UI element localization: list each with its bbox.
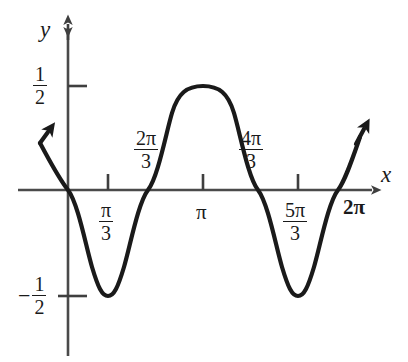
x-tick-label-2pi-over-3: 2π 3 (134, 128, 158, 172)
fraction-numerator: π (99, 200, 113, 222)
x-tick-label-2pi: 2π (343, 197, 365, 218)
plot-canvas (0, 0, 408, 362)
fraction-one-half-negative: 1 2 (32, 274, 46, 318)
fraction-numerator: 1 (33, 64, 47, 86)
x-tick-label-pi: π (196, 202, 207, 223)
fraction-2pi-over-3: 2π 3 (134, 128, 158, 172)
fraction-denominator: 3 (134, 150, 158, 171)
fraction-numerator: 5π (283, 200, 307, 222)
x-tick-label-5pi-over-3: 5π 3 (283, 200, 307, 244)
fraction-denominator: 2 (33, 86, 47, 107)
fraction-numerator: 2π (134, 128, 158, 150)
fraction-5pi-over-3: 5π 3 (283, 200, 307, 244)
fraction-one-half: 1 2 (33, 64, 47, 108)
fraction-numerator: 4π (239, 128, 263, 150)
fraction-denominator: 3 (283, 222, 307, 243)
y-tick-label-positive-half: 1 2 (33, 64, 47, 108)
fraction-4pi-over-3: 4π 3 (239, 128, 263, 172)
x-tick-label-4pi-over-3: 4π 3 (239, 128, 263, 172)
minus-sign: − (18, 285, 30, 307)
x-axis-label: x (381, 163, 391, 186)
fraction-denominator: 3 (239, 150, 263, 171)
y-axis-label: y (40, 18, 50, 41)
y-tick-label-negative-half: − 1 2 (18, 274, 46, 318)
fraction-pi-over-3: π 3 (99, 200, 113, 244)
x-tick-label-pi-over-3: π 3 (99, 200, 113, 244)
fraction-denominator: 2 (32, 296, 46, 317)
curve-left-arrowhead (40, 132, 48, 143)
fraction-numerator: 1 (32, 274, 46, 296)
fraction-denominator: 3 (99, 222, 113, 243)
graph-figure: y x 1 2 − 1 2 π 3 2π 3 π 4π 3 (0, 0, 408, 362)
